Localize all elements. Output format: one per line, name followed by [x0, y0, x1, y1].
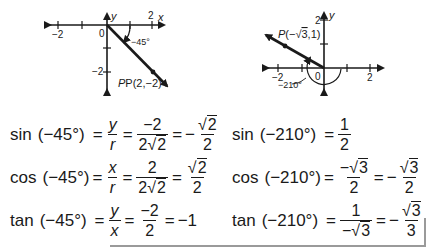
y-axis-label: y: [328, 9, 336, 21]
argument: (−45°): [38, 125, 85, 145]
equation-tan-neg45: tan (−45°) = yx = −22 = −1: [10, 203, 197, 239]
fraction-y-over-x: yx: [109, 203, 121, 239]
x-axis-label: x: [157, 11, 164, 23]
function-name: tan: [232, 211, 256, 231]
equation-cos-neg45: cos (−45°) = xr = 22√2 = √22: [10, 160, 210, 196]
function-name: cos: [232, 168, 258, 188]
equals-sign: =: [165, 211, 175, 231]
equation-cos-neg210: cos (−210°) = −√32 = − √32: [232, 160, 421, 196]
equals-sign: =: [324, 168, 334, 188]
fraction-result: √22: [186, 160, 209, 196]
equation-tan-neg210: tan (−210°) = 1−√3 = − √33: [232, 203, 424, 239]
result-value: −1: [178, 211, 197, 231]
argument: (−210°): [264, 168, 320, 188]
origin-label: 0: [99, 28, 105, 39]
angle-label: −210°: [278, 80, 302, 90]
frame-bottom-rule: [110, 245, 426, 247]
function-name: sin: [10, 125, 32, 145]
equals-sign: =: [122, 168, 132, 188]
equals-sign: =: [324, 125, 334, 145]
function-name: sin: [232, 125, 254, 145]
fraction-step1: 1−√3: [340, 203, 372, 239]
equals-sign: =: [123, 125, 133, 145]
tick-label-x-neg2: −2: [52, 29, 64, 40]
equals-sign: =: [92, 168, 102, 188]
fraction-step2: 22√2: [136, 160, 168, 196]
point-label: P(−√3,1): [278, 28, 320, 40]
fraction-result: √22: [196, 117, 219, 153]
argument: (−45°): [40, 211, 87, 231]
equals-sign: =: [95, 211, 105, 231]
fraction-result: √33: [400, 203, 423, 239]
fraction-result: 12: [338, 117, 351, 153]
argument: (−45°): [42, 168, 89, 188]
fraction-x-over-r: xr: [106, 160, 118, 196]
argument: (−210°): [262, 211, 318, 231]
equation-sin-neg210: sin (−210°) = 12: [232, 117, 352, 153]
point-p: [283, 44, 288, 49]
fraction-step2: −22: [138, 203, 160, 239]
fraction-y-over-r: yr: [107, 117, 119, 153]
argument: (−210°): [260, 125, 316, 145]
equals-sign: =: [93, 125, 103, 145]
frame-right-rule: [424, 218, 426, 246]
point-label: PP(2,−2): [118, 77, 162, 89]
equals-sign: =: [376, 211, 386, 231]
function-name: cos: [10, 168, 36, 188]
origin-label: 0: [315, 71, 321, 82]
negative-sign: −: [387, 168, 397, 188]
fraction-result: √32: [398, 160, 421, 196]
graphs: y x 0 −2 2 −2 −45° PP(2,−2) y 0 −2 2 2 −…: [0, 0, 430, 110]
equals-sign: =: [125, 211, 135, 231]
tick-label-y-neg2: −2: [92, 66, 104, 77]
point-p: [151, 70, 156, 75]
equation-sin-neg45: sin (−45°) = yr = −22√2 = − √22: [10, 117, 220, 153]
equals-sign: =: [172, 125, 182, 145]
fraction-step2: −22√2: [137, 117, 169, 153]
equals-sign: =: [374, 168, 384, 188]
tick-label-x-pos2: 2: [148, 10, 154, 21]
tick-label-y-pos2: 2: [315, 15, 321, 26]
fraction-step1: −√32: [338, 160, 370, 196]
negative-sign: −: [389, 211, 399, 231]
function-name: tan: [10, 211, 34, 231]
graph-right: [266, 13, 383, 90]
angle-label: −45°: [131, 37, 150, 47]
tick-label-x-pos2: 2: [367, 72, 373, 83]
equals-sign: =: [172, 168, 182, 188]
y-axis-label: y: [110, 10, 118, 22]
negative-sign: −: [185, 125, 195, 145]
angle-arc: [124, 26, 130, 42]
equals-sign: =: [326, 211, 336, 231]
